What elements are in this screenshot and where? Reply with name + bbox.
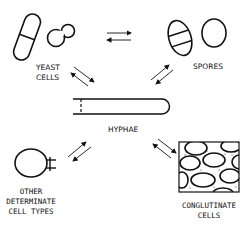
yeast-label-line1: YEAST <box>35 63 60 72</box>
other-label-line1: OTHER <box>20 187 43 196</box>
diagram-canvas: YEAST CELLS SPORES HYPHAE <box>0 0 248 233</box>
yeast-hyphae-arrows-icon <box>71 67 94 86</box>
other-label-line3: CELL TYPES <box>8 207 54 216</box>
other-label-line2: DETERMINATE <box>6 197 56 206</box>
other-hyphae-arrows-icon <box>68 142 91 161</box>
conglutinate-cells-icon <box>176 140 248 198</box>
conglutinate-hyphae-arrows-icon <box>153 139 176 158</box>
other-cell-icon <box>15 149 56 177</box>
conglutinate-label-line1: CONGLUTINATE <box>182 201 237 210</box>
hyphae-icon <box>73 99 170 114</box>
spores-icon <box>164 17 226 58</box>
yeast-label-line2: CELLS <box>36 73 59 82</box>
spores-hyphae-arrows-icon <box>151 65 173 84</box>
hyphae-label: HYPHAE <box>108 125 139 134</box>
yeast-spores-arrows-icon <box>107 33 131 40</box>
spores-label: SPORES <box>193 62 223 71</box>
conglutinate-label-line2: CELLS <box>198 211 221 220</box>
yeast-cells-icon <box>11 12 74 63</box>
